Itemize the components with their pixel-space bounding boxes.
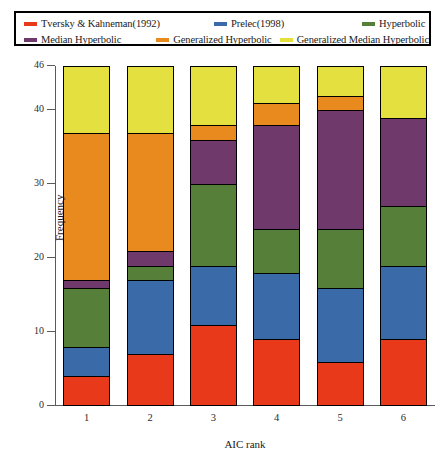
- bar-segment[interactable]: [190, 266, 237, 325]
- x-axis-tick-label: 5: [317, 412, 364, 423]
- bar-segment[interactable]: [190, 184, 237, 265]
- bar-segment[interactable]: [190, 66, 237, 125]
- bar-segment[interactable]: [190, 140, 237, 184]
- bar-segment[interactable]: [127, 133, 174, 251]
- bar-segment[interactable]: [380, 206, 427, 265]
- y-axis-tick: 46: [47, 65, 55, 66]
- bar-segment[interactable]: [380, 66, 427, 118]
- bar-segment[interactable]: [127, 266, 174, 281]
- bar-rank-5[interactable]: [317, 66, 364, 406]
- stacked-bar-chart: 01020304046 123456 Frequency AIC rank: [55, 66, 435, 406]
- legend-item-generalized-median-hyperbolic: Generalized Median Hyperbolic: [272, 34, 429, 45]
- y-axis-tick: 40: [47, 109, 55, 110]
- legend-swatch-hyperbolic: [362, 22, 375, 26]
- x-axis-tick-label: 2: [127, 412, 174, 423]
- legend-row-bottom: Median Hyperbolic Generalized Hyperbolic…: [16, 32, 429, 47]
- bar-segment[interactable]: [190, 325, 237, 406]
- bar-segment[interactable]: [127, 66, 174, 133]
- x-axis-label: AIC rank: [55, 438, 435, 450]
- legend-item-tversky-kahneman: Tversky & Kahneman(1992): [16, 18, 206, 29]
- legend-label-generalized-median-hyperbolic: Generalized Median Hyperbolic: [297, 34, 429, 45]
- bar-segment[interactable]: [63, 133, 110, 281]
- legend-item-generalized-hyperbolic: Generalized Hyperbolic: [148, 34, 271, 45]
- legend-row-top: Tversky & Kahneman(1992) Prelec(1998) Hy…: [16, 16, 429, 31]
- bar-segment[interactable]: [63, 376, 110, 406]
- bar-rank-3[interactable]: [190, 66, 237, 406]
- bar-segment[interactable]: [253, 339, 300, 406]
- y-axis-tick: 10: [47, 331, 55, 332]
- bar-segment[interactable]: [63, 280, 110, 287]
- y-axis-tick-label: 30: [34, 177, 44, 188]
- bar-segment[interactable]: [380, 339, 427, 406]
- bar-segment[interactable]: [317, 362, 364, 406]
- y-axis-label: Frequency: [53, 195, 65, 241]
- bar-segment[interactable]: [317, 66, 364, 96]
- y-axis-tick: 20: [47, 257, 55, 258]
- legend-label-generalized-hyperbolic: Generalized Hyperbolic: [173, 34, 271, 45]
- bar-segment[interactable]: [253, 103, 300, 125]
- legend-label-hyperbolic: Hyperbolic: [379, 18, 425, 29]
- bar-rank-4[interactable]: [253, 66, 300, 406]
- x-axis-tick-label: 6: [380, 412, 427, 423]
- bar-segment[interactable]: [317, 288, 364, 362]
- chart-legend: Tversky & Kahneman(1992) Prelec(1998) Hy…: [14, 11, 431, 46]
- x-axis-tick-label: 1: [63, 412, 110, 423]
- bar-segment[interactable]: [317, 229, 364, 288]
- x-axis-tick-label: 3: [190, 412, 237, 423]
- legend-item-hyperbolic: Hyperbolic: [354, 18, 425, 29]
- bar-rank-1[interactable]: [63, 66, 110, 406]
- bar-segment[interactable]: [253, 229, 300, 273]
- legend-swatch-prelec: [214, 22, 227, 26]
- legend-swatch-generalized-median-hyperbolic: [280, 38, 293, 42]
- plot-frame: [55, 66, 435, 406]
- bar-segment[interactable]: [127, 354, 174, 406]
- bar-segment[interactable]: [380, 118, 427, 207]
- bar-segment[interactable]: [127, 251, 174, 266]
- bar-segment[interactable]: [127, 280, 174, 354]
- legend-item-prelec: Prelec(1998): [206, 18, 354, 29]
- bar-segment[interactable]: [317, 110, 364, 228]
- bar-segment[interactable]: [253, 125, 300, 228]
- y-axis-tick-label: 46: [34, 59, 44, 70]
- bar-segment[interactable]: [380, 266, 427, 340]
- legend-item-median-hyperbolic: Median Hyperbolic: [16, 34, 148, 45]
- legend-label-median-hyperbolic: Median Hyperbolic: [41, 34, 121, 45]
- legend-swatch-generalized-hyperbolic: [156, 38, 169, 42]
- bar-segment[interactable]: [190, 125, 237, 140]
- y-axis-tick: 30: [47, 183, 55, 184]
- legend-label-prelec: Prelec(1998): [231, 18, 284, 29]
- y-axis-tick: 0: [47, 405, 55, 406]
- bar-segment[interactable]: [63, 347, 110, 377]
- bar-rank-6[interactable]: [380, 66, 427, 406]
- bar-segment[interactable]: [317, 96, 364, 111]
- legend-swatch-median-hyperbolic: [24, 38, 37, 42]
- bar-segment[interactable]: [63, 66, 110, 133]
- y-axis-tick-label: 20: [34, 251, 44, 262]
- y-axis-tick-label: 40: [34, 103, 44, 114]
- x-axis-tick-label: 4: [253, 412, 300, 423]
- bar-segment[interactable]: [63, 288, 110, 347]
- y-axis-tick-label: 0: [39, 399, 44, 410]
- legend-label-tversky-kahneman: Tversky & Kahneman(1992): [41, 18, 160, 29]
- bar-rank-2[interactable]: [127, 66, 174, 406]
- y-axis-tick-label: 10: [34, 325, 44, 336]
- legend-swatch-tversky-kahneman: [24, 22, 37, 26]
- bar-segment[interactable]: [253, 273, 300, 340]
- bar-segment[interactable]: [253, 66, 300, 103]
